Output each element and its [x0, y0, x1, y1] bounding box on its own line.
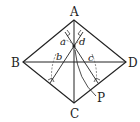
rhombus-diagram: A B D C P a d b c [0, 0, 140, 122]
label-dist-d: d [79, 36, 85, 47]
label-a: A [69, 5, 79, 19]
label-dist-b: b [56, 51, 62, 62]
label-b: B [11, 56, 20, 70]
label-dist-a: a [60, 36, 66, 47]
label-d: D [128, 56, 138, 70]
label-c: C [70, 107, 79, 121]
point-p [72, 44, 75, 47]
label-p: P [97, 91, 105, 105]
label-dist-c: c [88, 52, 94, 63]
